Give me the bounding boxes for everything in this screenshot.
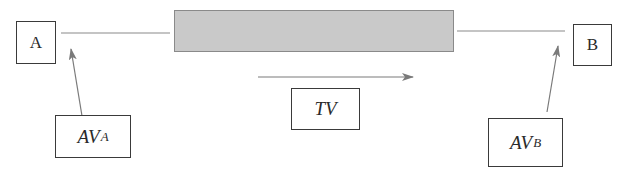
node-av-b-subscript: B	[533, 135, 541, 151]
node-b-label: B	[587, 35, 598, 55]
node-tv-label: TV	[314, 98, 336, 120]
diagram-canvas: A B AVA TV AVB	[0, 0, 637, 180]
arrow-av-b	[547, 46, 558, 112]
node-tv: TV	[291, 88, 360, 130]
node-av-b: AVB	[488, 118, 563, 167]
node-av-a: AVA	[55, 115, 131, 158]
gray-bar	[174, 10, 454, 52]
node-av-b-main: AV	[510, 132, 532, 154]
node-a: A	[16, 21, 56, 64]
node-av-a-main: AV	[77, 126, 99, 148]
node-b: B	[573, 24, 612, 66]
arrow-av-a	[71, 49, 82, 116]
node-av-a-subscript: A	[101, 129, 109, 145]
node-a-label: A	[30, 33, 42, 53]
